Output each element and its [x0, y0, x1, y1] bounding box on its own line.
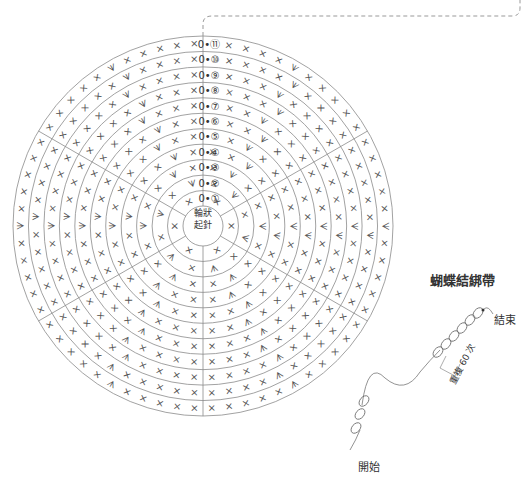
single-crochet-stitch: ×	[154, 365, 165, 378]
single-crochet-stitch: ×	[169, 222, 180, 230]
chain-stitch	[471, 306, 485, 320]
round-marker: 0•⑤	[198, 131, 219, 142]
increase-stitch: ᗐ	[271, 231, 282, 241]
single-crochet-stitch: ×	[170, 322, 181, 335]
increase-stitch: ᗐ	[257, 134, 270, 147]
single-crochet-stitch: ×	[332, 152, 346, 164]
chain-stitch	[455, 321, 469, 335]
increase-stitch: ᗐ	[273, 89, 286, 102]
single-crochet-stitch: ×	[123, 166, 137, 179]
crochet-chart: ×××××××ᗐ×ᗐ×ᗐ×ᗐ×ᗐ×ᗐ×ᗐ××ᗐ××ᗐ××ᗐ××ᗐ××ᗐ×××ᗐ×…	[0, 0, 528, 484]
round-marker: 0•①	[198, 193, 219, 204]
single-crochet-stitch: ×	[224, 385, 234, 397]
increase-stitch: ᗐ	[187, 178, 198, 190]
single-crochet-stitch: ×	[331, 247, 343, 257]
increase-stitch: ᗐ	[227, 189, 240, 202]
single-crochet-stitch: ×	[296, 151, 310, 164]
single-crochet-stitch: ×	[256, 152, 270, 166]
single-crochet-stitch: ×	[34, 136, 48, 148]
single-crochet-stitch: ×	[225, 322, 236, 335]
single-crochet-stitch: ×	[30, 230, 41, 239]
single-crochet-stitch: ×	[169, 305, 180, 318]
single-crochet-stitch: ×	[153, 90, 164, 103]
single-crochet-stitch: ×	[136, 133, 149, 147]
single-crochet-stitch: ×	[331, 194, 343, 204]
single-crochet-stitch: ×	[224, 369, 234, 381]
single-crochet-stitch: ×	[190, 403, 199, 414]
single-crochet-stitch: ×	[137, 47, 149, 60]
chain-stitch	[353, 407, 367, 421]
single-crochet-stitch: ×	[225, 118, 236, 131]
single-crochet-stitch: ×	[286, 117, 300, 131]
single-crochet-stitch: ×	[300, 330, 314, 344]
single-crochet-stitch: ×	[52, 332, 66, 345]
increase-stitch: ᗐ	[121, 332, 134, 345]
single-crochet-stitch: ×	[208, 325, 217, 337]
single-crochet-stitch: ×	[285, 202, 298, 212]
single-crochet-stitch: ×	[285, 239, 298, 249]
single-crochet-stitch: ×	[190, 53, 199, 64]
single-crochet-stitch: ×	[319, 280, 333, 292]
single-crochet-stitch: ×	[34, 304, 48, 316]
single-crochet-stitch: ×	[90, 368, 103, 382]
single-crochet-stitch: ×	[171, 86, 181, 98]
single-crochet-stitch: ×	[137, 63, 149, 76]
single-crochet-stitch: ×	[252, 240, 265, 252]
single-crochet-stitch: ×	[123, 272, 137, 285]
single-crochet-stitch: ×	[141, 200, 154, 212]
increase-stitch: ᗐ	[93, 211, 104, 221]
single-crochet-stitch: ×	[224, 39, 234, 51]
single-crochet-stitch: ×	[359, 304, 373, 316]
round-markers: 0•①0•②0•③0•④0•⑤0•⑥0•⑦0•⑧0•⑨0•⑩0•⑪	[198, 39, 220, 205]
single-crochet-stitch: ×	[106, 322, 120, 336]
single-crochet-stitch: ×	[224, 70, 234, 82]
single-crochet-stitch: ×	[83, 144, 97, 157]
single-crochet-stitch: ×	[208, 278, 218, 290]
single-crochet-stitch: ×	[188, 278, 198, 290]
increase-stitch: ᗐ	[272, 368, 285, 381]
single-crochet-stitch: ×	[379, 239, 391, 248]
single-crochet-stitch: ×	[90, 70, 103, 84]
single-crochet-stitch: ×	[154, 381, 165, 394]
single-crochet-stitch: ×	[256, 286, 270, 300]
single-crochet-stitch: ×	[94, 129, 108, 143]
single-crochet-stitch: ×	[226, 150, 238, 163]
single-crochet-stitch: ×	[107, 301, 121, 315]
single-crochet-stitch: ×	[287, 97, 300, 111]
round-marker: 0•⑩	[198, 54, 219, 65]
single-crochet-stitch: ×	[225, 102, 236, 115]
single-crochet-stitch: ×	[155, 397, 166, 410]
single-crochet-stitch: ×	[77, 81, 91, 95]
increase-stitch: ᗐ	[106, 61, 119, 74]
single-crochet-stitch: ×	[326, 114, 340, 127]
single-crochet-stitch: ×	[239, 209, 252, 220]
single-crochet-stitch: ×	[114, 257, 127, 269]
single-crochet-stitch: ×	[271, 145, 285, 159]
single-crochet-stitch: ×	[121, 386, 133, 399]
single-crochet-stitch: ×	[172, 385, 182, 397]
single-crochet-stitch: ×	[87, 272, 101, 284]
increase-stitch: ᗐ	[124, 211, 135, 221]
single-crochet-stitch: ×	[54, 272, 67, 284]
increase-stitch: ᗐ	[168, 168, 181, 181]
single-crochet-stitch: ×	[61, 230, 73, 239]
single-crochet-stitch: ×	[183, 195, 196, 209]
single-crochet-stitch: ×	[64, 345, 78, 359]
single-crochet-stitch: ×	[74, 159, 88, 171]
single-crochet-stitch: ×	[63, 194, 75, 204]
increase-stitch: ᗐ	[256, 324, 269, 337]
single-crochet-stitch: ×	[172, 70, 182, 82]
single-crochet-stitch: ×	[225, 305, 236, 318]
single-crochet-stitch: ×	[190, 69, 199, 80]
increase-stitch: ᗐ	[167, 270, 180, 283]
single-crochet-stitch: ×	[358, 177, 371, 188]
round-marker: 0•⑨	[198, 70, 219, 81]
round-marker: 0•④	[198, 147, 219, 158]
single-crochet-stitch: ×	[372, 169, 385, 180]
single-crochet-stitch: ×	[255, 265, 269, 278]
increase-stitch: ᗐ	[208, 262, 219, 274]
single-crochet-stitch: ×	[190, 387, 199, 398]
single-crochet-stitch: ×	[241, 58, 252, 71]
increase-stitch: ᗐ	[287, 378, 300, 391]
single-crochet-stitch: ×	[47, 296, 61, 308]
